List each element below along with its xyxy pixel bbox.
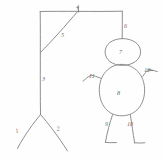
part-label-3: 3 — [41, 75, 45, 82]
part-label-4: 4 — [76, 3, 79, 10]
part-label-1: 1 — [14, 126, 19, 134]
part-label-8: 8 — [117, 89, 121, 96]
part-label-12: 12 — [144, 66, 150, 73]
part-label-2: 2 — [56, 124, 60, 131]
diagonal-brace-stroke — [40, 12, 77, 53]
body-stroke — [99, 64, 144, 115]
part-label-5: 5 — [61, 31, 64, 38]
part-label-6: 6 — [124, 22, 128, 29]
leg-left-stroke — [105, 115, 112, 143]
head-stroke — [105, 39, 141, 66]
drawing-canvas: 1 2 3 4 5 6 7 8 9 10 11 12 — [0, 0, 162, 160]
part-label-10: 10 — [127, 120, 134, 127]
base-leg-left-stroke — [18, 115, 41, 149]
base-leg-right-stroke — [41, 115, 68, 152]
part-label-9: 9 — [105, 120, 108, 127]
leg-right-stroke — [130, 115, 134, 143]
hangman-diagram: 1 2 3 4 5 6 7 8 9 10 11 12 — [0, 0, 162, 160]
part-label-7: 7 — [119, 48, 123, 55]
part-label-11: 11 — [89, 72, 95, 79]
